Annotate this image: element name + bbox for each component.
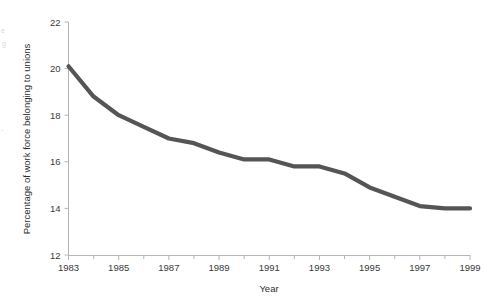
y-axis-tick-label: 20 — [50, 63, 61, 74]
x-axis-tick-label: 1991 — [259, 262, 280, 273]
y-axis-tick-label: 22 — [50, 17, 61, 28]
y-axis-tick-label: 12 — [50, 250, 61, 261]
x-axis-tick-label: 1989 — [208, 262, 229, 273]
scan-artifact-mark: g — [2, 40, 6, 47]
scan-artifact-mark: - — [1, 126, 3, 133]
x-axis-title: Year — [259, 283, 278, 294]
y-axis-title: Percentage of work force belonging to un… — [21, 43, 32, 234]
x-axis-tick-label: 1995 — [359, 262, 380, 273]
x-axis-tick-label: 1987 — [158, 262, 179, 273]
x-axis-tick-label: 1993 — [309, 262, 330, 273]
x-axis-tick-labels: 198319851987198919911993199519971999 — [58, 262, 481, 273]
y-axis-tick-label: 14 — [50, 203, 61, 214]
chart-canvas: 222018161412 198319851987198919911993199… — [0, 0, 489, 305]
x-axis-tick-label: 1999 — [459, 262, 480, 273]
scan-artifact-mark: e — [1, 27, 5, 34]
x-axis-tick-label: 1983 — [58, 262, 79, 273]
x-axis-tick-label: 1997 — [409, 262, 430, 273]
y-axis-tick-label: 18 — [50, 110, 61, 121]
chart-background — [0, 0, 489, 305]
x-axis-tick-label: 1985 — [108, 262, 129, 273]
line-chart: e g - 222018161412 198319851987198919911… — [0, 0, 489, 305]
y-axis-tick-label: 16 — [50, 156, 61, 167]
